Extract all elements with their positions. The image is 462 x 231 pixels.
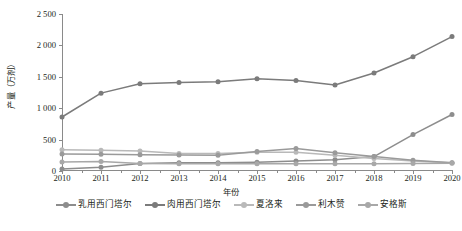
data-point: [60, 167, 65, 172]
legend-marker-icon: [296, 200, 316, 209]
legend-label: 安格斯: [380, 200, 407, 209]
chart-legend: 乳用西门塔尔肉用西门塔尔夏洛来利木赞安格斯: [0, 200, 462, 209]
legend-item[interactable]: 利木赞: [296, 200, 345, 209]
data-point: [450, 161, 455, 166]
x-tick-label: 2011: [93, 174, 110, 183]
x-tick-label: 2012: [131, 174, 148, 183]
legend-item[interactable]: 乳用西门塔尔: [56, 200, 132, 209]
data-point: [255, 161, 260, 166]
legend-label: 利木赞: [318, 200, 345, 209]
legend-marker-icon: [358, 200, 378, 209]
legend-item[interactable]: 肉用西门塔尔: [145, 200, 221, 209]
data-point: [216, 153, 221, 158]
x-tick-label: 2016: [287, 174, 304, 183]
x-tick-label: 2020: [443, 174, 460, 183]
data-point: [177, 80, 182, 85]
series-肉用西门塔尔: [60, 34, 455, 119]
x-tick-label: 2019: [404, 174, 421, 183]
data-point: [99, 165, 104, 170]
legend-marker-icon: [234, 200, 254, 209]
y-axis-title: 产量（万剂）: [4, 45, 16, 123]
data-point: [99, 152, 104, 157]
x-tick-label: 2015: [248, 174, 265, 183]
data-point: [216, 161, 221, 166]
x-tick-label: 2017: [326, 174, 343, 183]
y-tick-label: 500: [43, 135, 56, 144]
data-point: [294, 78, 299, 83]
data-point: [99, 91, 104, 96]
y-tick-label: 1 500: [37, 73, 56, 82]
data-point: [294, 161, 299, 166]
data-point: [411, 132, 416, 137]
data-point: [60, 147, 65, 152]
legend-marker-icon: [145, 200, 165, 209]
plot-area: 05001 0001 5002 0002 500 201020112012201…: [62, 14, 452, 171]
data-point: [450, 34, 455, 39]
data-point: [60, 114, 65, 119]
data-point: [372, 161, 377, 166]
y-tick-label: 2 500: [37, 10, 56, 19]
data-point: [177, 161, 182, 166]
data-point: [255, 76, 260, 81]
x-tick-label: 2018: [365, 174, 382, 183]
chart-figure: 产量（万剂） 05001 0001 5002 0002 500 20102011…: [0, 0, 462, 231]
x-axis-title: 年份: [0, 185, 462, 197]
legend-item[interactable]: 夏洛来: [234, 200, 283, 209]
data-point: [255, 149, 260, 154]
legend-label: 肉用西门塔尔: [167, 200, 221, 209]
data-point: [60, 159, 65, 164]
y-tick-label: 1 000: [37, 104, 56, 113]
data-point: [138, 152, 143, 157]
data-point: [333, 161, 338, 166]
legend-label: 乳用西门塔尔: [78, 200, 132, 209]
data-point: [138, 161, 143, 166]
data-point: [294, 146, 299, 151]
data-point: [411, 161, 416, 166]
legend-label: 夏洛来: [256, 200, 283, 209]
data-point: [372, 71, 377, 76]
data-point: [216, 79, 221, 84]
data-point: [372, 154, 377, 159]
x-tick-label: 2013: [170, 174, 187, 183]
x-tick-label: 2010: [53, 174, 70, 183]
data-point: [138, 81, 143, 86]
data-point: [450, 112, 455, 117]
data-point: [177, 152, 182, 157]
data-point: [333, 82, 338, 87]
x-tick-label: 2014: [209, 174, 226, 183]
series-lines: [62, 14, 452, 171]
legend-marker-icon: [56, 200, 76, 209]
data-point: [60, 152, 65, 157]
legend-item[interactable]: 安格斯: [358, 200, 407, 209]
data-point: [333, 150, 338, 155]
data-point: [411, 54, 416, 59]
data-point: [99, 159, 104, 164]
y-tick-label: 2 000: [37, 41, 56, 50]
